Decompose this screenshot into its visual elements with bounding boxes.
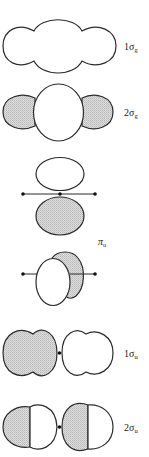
orbital-1sigma-u: 1σu bbox=[3, 330, 138, 375]
orbital-2sigma-g: 2σg bbox=[3, 84, 138, 141]
mo-diagram: 1σg 2σg πu 1σu bbox=[0, 0, 149, 457]
label-2sigma-g: 2σg bbox=[124, 107, 138, 119]
orbital-1sigma-g: 1σg bbox=[3, 20, 138, 73]
label-1sigma-g: 1σg bbox=[124, 41, 138, 53]
lobe-left-outer-shaded bbox=[3, 407, 30, 448]
lobe-front bbox=[36, 259, 70, 306]
lobe-lower-shaded bbox=[36, 197, 84, 235]
nucleus-dot bbox=[93, 272, 97, 276]
lobe-right-inner-shaded bbox=[62, 404, 88, 451]
orbital-pi-u-side bbox=[21, 158, 97, 236]
center-dot bbox=[58, 425, 62, 429]
orbital-1sigma-g-shape bbox=[3, 20, 116, 73]
orbital-2sigma-u: 2σu bbox=[3, 404, 138, 451]
lobe-center bbox=[34, 84, 84, 141]
label-2sigma-u: 2σu bbox=[124, 422, 138, 434]
nucleus-dot bbox=[21, 272, 25, 276]
nucleus-dot bbox=[93, 192, 97, 196]
orbital-pi-u-perspective bbox=[21, 252, 97, 306]
lobe-left-shaded bbox=[3, 95, 35, 128]
lobe-right-shaded bbox=[82, 95, 113, 128]
label-1sigma-u: 1σu bbox=[124, 348, 138, 360]
lobe-left-shaded bbox=[3, 330, 57, 375]
lobe-right-outer bbox=[88, 405, 113, 449]
label-pi-u: πu bbox=[98, 236, 107, 248]
lobe-right bbox=[62, 331, 113, 375]
lobe-left-inner bbox=[30, 405, 57, 449]
center-dot bbox=[58, 192, 62, 196]
lobe-upper bbox=[36, 158, 84, 191]
center-dot bbox=[58, 351, 62, 355]
nucleus-dot bbox=[21, 192, 25, 196]
